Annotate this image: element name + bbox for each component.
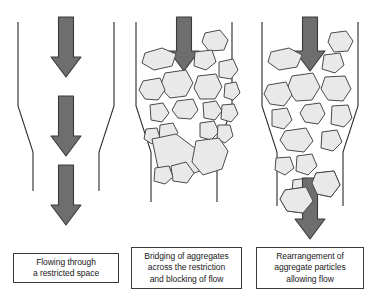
flow-arrow-3-top	[295, 17, 325, 71]
caption-line: and blocking of flow	[150, 274, 224, 286]
aggregate	[219, 59, 238, 79]
aggregate	[264, 82, 292, 106]
aggregate	[194, 50, 216, 70]
aggregate	[194, 74, 222, 99]
aggregate	[139, 78, 165, 100]
aggregate	[224, 82, 240, 100]
aggregate	[287, 73, 320, 101]
caption-line: a restricted space	[33, 268, 99, 280]
aggregate	[172, 99, 198, 119]
aggregate	[200, 121, 219, 140]
caption-line: Bridging of aggregates	[144, 251, 228, 263]
aggregate	[280, 128, 313, 152]
aggregate	[331, 105, 352, 127]
caption-bridging: Bridging of aggregates across the restri…	[131, 247, 242, 289]
aggregate	[321, 76, 351, 101]
caption-rearrangement: Rearrangement of aggregate particles all…	[256, 247, 364, 289]
aggregate	[142, 48, 176, 70]
aggregate	[275, 157, 294, 175]
caption-line: Flowing through	[36, 257, 96, 269]
aggregate	[160, 70, 193, 98]
flow-arrows-1	[51, 17, 81, 225]
aggregate	[154, 166, 173, 184]
aggregate	[202, 30, 228, 51]
caption-line: aggregate particles	[274, 262, 345, 274]
panel-flowing	[18, 17, 114, 225]
aggregate	[312, 171, 340, 197]
caption-line: allowing flow	[286, 274, 334, 286]
aggregate	[300, 103, 325, 124]
aggregate	[272, 108, 292, 129]
aggregate	[321, 130, 342, 151]
caption-line: across the restriction	[148, 262, 225, 274]
aggregate	[322, 53, 344, 73]
panel-rearrangement	[262, 17, 358, 239]
aggregate	[296, 154, 317, 175]
aggregate-flow-diagram: Flowing through a restricted space Bridg…	[0, 0, 377, 293]
caption-flowing: Flowing through a restricted space	[13, 253, 119, 283]
aggregate	[328, 31, 353, 52]
caption-line: Rearrangement of	[276, 251, 344, 263]
aggregate	[221, 104, 238, 122]
panel-bridging	[136, 17, 240, 202]
aggregate	[203, 101, 222, 120]
aggregate	[150, 103, 169, 122]
